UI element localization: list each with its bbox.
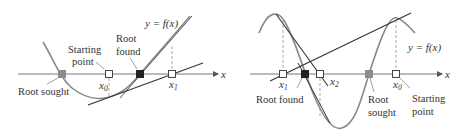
right-x0-marker: [393, 71, 400, 78]
left-root-sought-label: Root sought: [18, 86, 69, 97]
right-panel: x Root found Root sought Starting point …: [250, 13, 450, 128]
right-x2-marker: [317, 71, 324, 78]
right-x2-label: x2: [329, 75, 339, 89]
right-root-sought-label-1: Root: [368, 94, 389, 105]
newton-method-diagram: x Root sought Starting point Root found …: [0, 0, 459, 138]
left-x1-marker: [169, 71, 176, 78]
left-x0-label: x0: [98, 79, 108, 93]
left-root-found-marker: [136, 70, 144, 78]
right-starting-point-label-2: point: [412, 106, 434, 117]
right-tangent-from-x0: [270, 13, 411, 81]
right-root-sought-leader: [370, 78, 374, 92]
right-x1-label: x1: [278, 78, 288, 92]
right-root-found-leader: [297, 78, 302, 88]
left-x0-marker: [106, 71, 113, 78]
left-x1-label: x1: [168, 78, 178, 92]
left-starting-point-leader: [96, 62, 104, 69]
left-root-found-label-1: Root: [116, 33, 137, 44]
right-x-axis-label: x: [444, 68, 450, 80]
left-panel: x Root sought Starting point Root found …: [18, 16, 226, 105]
left-root-found-label-2: found: [116, 46, 141, 57]
left-root-sought-leader: [47, 78, 58, 84]
right-x0-label: x0: [392, 78, 402, 92]
left-starting-point-label-1: Starting: [68, 44, 102, 55]
left-curve-label: y = f(x): [144, 17, 178, 30]
right-x1-marker: [280, 71, 287, 78]
right-root-sought-marker: [365, 70, 373, 78]
right-root-found-label: Root found: [256, 94, 304, 105]
right-curve-label: y = f(x): [407, 41, 441, 54]
right-root-sought-label-2: sought: [368, 107, 396, 118]
right-root-found-marker: [301, 70, 309, 78]
left-root-sought-marker: [58, 70, 66, 78]
left-root-found-leader: [130, 58, 137, 69]
right-starting-point-label-1: Starting: [412, 93, 446, 104]
left-starting-point-label-2: point: [72, 56, 94, 67]
left-x-axis-label: x: [220, 68, 226, 80]
